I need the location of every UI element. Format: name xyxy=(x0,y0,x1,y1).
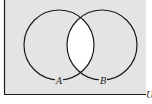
venn-diagram: A B U xyxy=(0,0,152,104)
universe-label: U xyxy=(146,90,152,100)
set-b-label: B xyxy=(99,76,107,86)
set-a-label: A xyxy=(55,76,63,86)
